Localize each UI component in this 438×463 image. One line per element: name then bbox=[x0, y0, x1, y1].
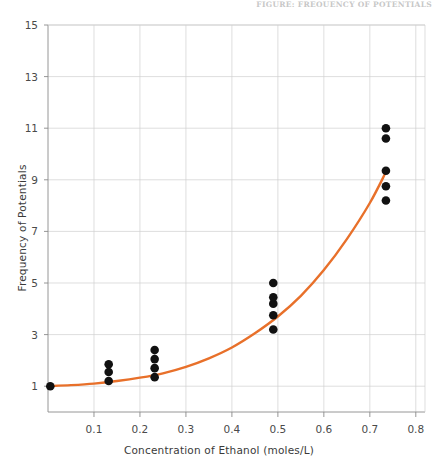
x-tick-label: 0.5 bbox=[258, 424, 298, 435]
data-point bbox=[269, 325, 278, 334]
y-tick-label: 13 bbox=[12, 72, 38, 82]
x-tick-label: 0.7 bbox=[350, 424, 390, 435]
x-axis-title: Concentration of Ethanol (moles/L) bbox=[0, 444, 438, 456]
data-point bbox=[269, 311, 278, 320]
data-point bbox=[104, 360, 113, 369]
x-tick-label: 0.8 bbox=[396, 424, 436, 435]
gridlines bbox=[48, 25, 425, 412]
figure-scatter-plot: 13579111315 0.10.20.30.40.50.60.70.8 Con… bbox=[0, 0, 438, 463]
data-point bbox=[269, 279, 278, 288]
data-point bbox=[382, 196, 391, 205]
data-point bbox=[382, 134, 391, 143]
y-tick-label: 1 bbox=[12, 381, 38, 391]
x-tick-label: 0.4 bbox=[212, 424, 252, 435]
x-tick-label: 0.6 bbox=[304, 424, 344, 435]
data-point bbox=[382, 124, 391, 133]
plot-canvas bbox=[0, 0, 438, 463]
data-point bbox=[150, 373, 159, 382]
data-point bbox=[150, 364, 159, 373]
y-tick-label: 3 bbox=[12, 330, 38, 340]
data-points bbox=[46, 124, 390, 391]
data-point bbox=[150, 355, 159, 364]
data-point bbox=[382, 166, 391, 175]
data-point bbox=[104, 377, 113, 386]
fit-curve bbox=[48, 172, 386, 386]
data-point bbox=[104, 368, 113, 377]
data-point bbox=[150, 346, 159, 355]
data-point bbox=[382, 182, 391, 191]
x-tick-label: 0.3 bbox=[166, 424, 206, 435]
plot-frame bbox=[48, 25, 425, 412]
x-tick-label: 0.1 bbox=[74, 424, 114, 435]
data-point bbox=[46, 382, 55, 391]
x-tick-label: 0.2 bbox=[120, 424, 160, 435]
y-axis-title: Frequency of Potentials bbox=[16, 128, 28, 328]
y-tick-label: 15 bbox=[12, 20, 38, 30]
data-point bbox=[269, 293, 278, 302]
